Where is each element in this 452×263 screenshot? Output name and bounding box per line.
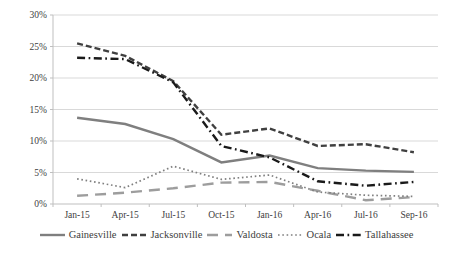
- legend-marker-dot-line-icon: [277, 231, 304, 239]
- x-tick-label: Apr-16: [304, 210, 331, 220]
- series-line-tallahassee: [77, 58, 414, 186]
- legend-item-valdosta: Valdosta: [206, 229, 272, 240]
- x-tick-label: Jul-15: [161, 210, 185, 220]
- legend-marker-dash-line-icon: [121, 231, 148, 239]
- x-tick-label: Jan-15: [64, 210, 90, 220]
- y-tick-label: 15%: [30, 105, 48, 115]
- y-tick-label: 0%: [34, 199, 47, 209]
- x-tick-label: Oct-15: [208, 210, 235, 220]
- legend-label: Jacksonville: [151, 229, 203, 240]
- legend-label: Gainesville: [69, 229, 117, 240]
- legend-label: Valdosta: [236, 229, 272, 240]
- line-chart-svg: 0%5%10%15%20%25%30%Jan-15Apr-15Jul-15Oct…: [0, 0, 452, 228]
- x-tick-label: Jan-16: [257, 210, 283, 220]
- y-tick-label: 10%: [30, 136, 48, 146]
- series-line-gainesville: [77, 118, 414, 172]
- legend-marker-solid-line-icon: [39, 231, 66, 239]
- x-tick-label: Jul-16: [354, 210, 378, 220]
- legend-label: Tallahassee: [365, 229, 413, 240]
- chart-legend: GainesvilleJacksonvilleValdostaOcalaTall…: [0, 229, 452, 240]
- x-tick-label: Apr-15: [112, 210, 139, 220]
- y-tick-label: 5%: [34, 168, 47, 178]
- x-tick-label: Sep-16: [400, 210, 427, 220]
- y-tick-label: 25%: [30, 42, 48, 52]
- line-chart: 0%5%10%15%20%25%30%Jan-15Apr-15Jul-15Oct…: [0, 0, 452, 263]
- legend-item-ocala: Ocala: [277, 229, 331, 240]
- y-tick-label: 30%: [30, 10, 48, 20]
- legend-marker-longdash-line-icon: [206, 231, 233, 239]
- legend-label: Ocala: [307, 229, 331, 240]
- legend-item-gainesville: Gainesville: [39, 229, 117, 240]
- y-tick-label: 20%: [30, 73, 48, 83]
- legend-marker-dashdot-line-icon: [335, 231, 362, 239]
- legend-item-jacksonville: Jacksonville: [121, 229, 203, 240]
- legend-item-tallahassee: Tallahassee: [335, 229, 413, 240]
